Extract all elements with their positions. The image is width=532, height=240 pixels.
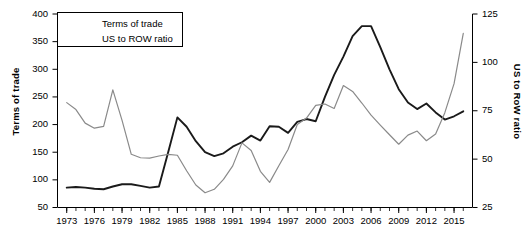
- legend-item-us-to-row: US to ROW ratio: [62, 31, 173, 45]
- right-tick-label: 125: [482, 8, 516, 19]
- right-tick-label: 50: [482, 153, 516, 164]
- left-tick-label: 400: [14, 8, 48, 19]
- right-tick-label: 75: [482, 104, 516, 115]
- right-tick-label: 25: [482, 201, 516, 212]
- left-tick-label: 300: [14, 63, 48, 74]
- right-tick-label: 100: [482, 56, 516, 67]
- series-line-us-to-row-ratio: [67, 33, 464, 192]
- x-axis-major-ticks: [67, 208, 454, 214]
- chart-legend: Terms of trade US to ROW ratio: [57, 12, 183, 47]
- x-tick-label: 2015: [434, 215, 474, 226]
- left-tick-label: 100: [14, 173, 48, 184]
- x-axis-minor-ticks: [67, 208, 464, 212]
- chart-container: Terms of trade US to RoW ratio 400350300…: [0, 0, 532, 240]
- legend-item-terms-of-trade: Terms of trade: [62, 16, 163, 30]
- left-tick-label: 350: [14, 35, 48, 46]
- left-tick-label: 200: [14, 118, 48, 129]
- legend-label-terms-of-trade: Terms of trade: [102, 18, 163, 29]
- left-tick-label: 150: [14, 146, 48, 157]
- right-axis-ticks: [473, 14, 478, 208]
- data-series-layer: [67, 26, 464, 193]
- left-tick-label: 50: [14, 201, 48, 212]
- right-axis-title: US to RoW ratio: [512, 59, 523, 145]
- legend-label-us-to-row: US to ROW ratio: [102, 33, 173, 44]
- series-line-terms-of-trade: [67, 26, 464, 189]
- left-tick-label: 250: [14, 90, 48, 101]
